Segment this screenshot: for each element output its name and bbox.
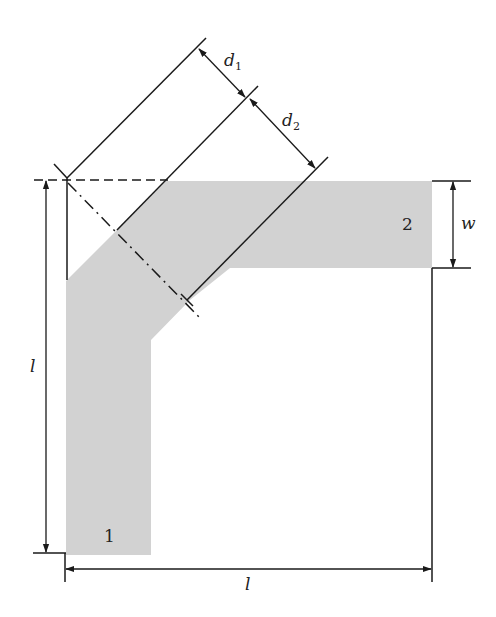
d1-dimension-arrow <box>199 49 245 97</box>
port-2-label: 2 <box>402 214 413 234</box>
l-horizontal-label: l <box>245 574 250 594</box>
l-vertical-label: l <box>30 356 35 376</box>
mitered-bend-diagram: d1 d2 w l l 1 2 <box>0 0 496 617</box>
d2-label: d2 <box>282 110 300 133</box>
corner-tick <box>54 164 67 178</box>
port-1-label: 1 <box>104 526 115 546</box>
outer-corner-diagonal <box>67 38 206 178</box>
w-label: w <box>461 213 476 233</box>
d1-label: d1 <box>224 50 242 73</box>
